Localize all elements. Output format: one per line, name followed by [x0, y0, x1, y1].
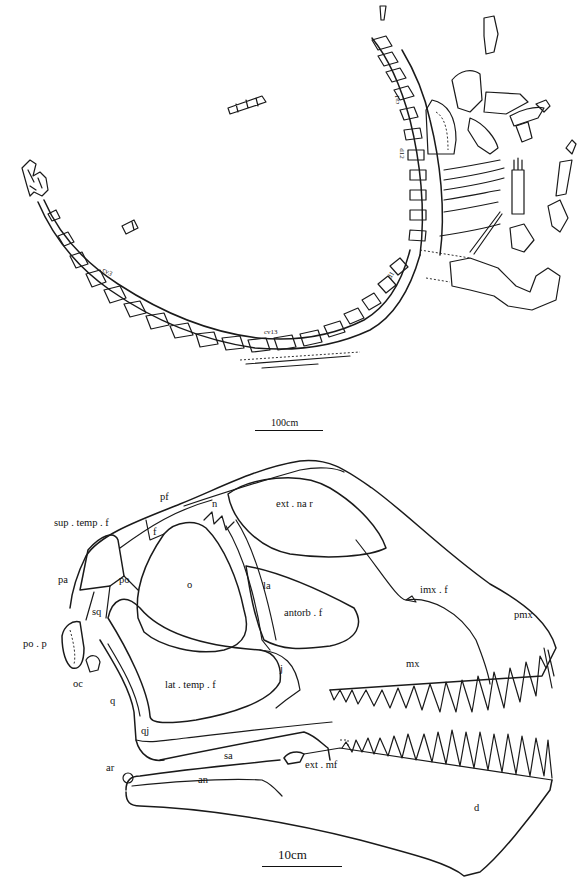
skeleton-line-drawing	[0, 0, 588, 440]
label-cv13: cv13	[264, 329, 278, 336]
label-ext-nar: ext . na r	[276, 499, 313, 510]
label-qj: qj	[141, 726, 149, 737]
skull-lateral-view-panel: sup . temp . f pf n f ext . na r pa po o…	[0, 440, 588, 884]
skull-fragment	[22, 160, 48, 196]
label-an: an	[198, 775, 208, 786]
label-lat-temp-f: lat . temp . f	[165, 680, 216, 691]
label-sq: sq	[92, 607, 101, 618]
label-ca1: ca1	[394, 95, 401, 105]
label-imx-f: imx . f	[420, 585, 448, 596]
label-po: po	[119, 575, 130, 586]
label-ar: ar	[106, 763, 114, 774]
label-pf: pf	[160, 492, 169, 503]
label-mx: mx	[406, 659, 419, 670]
label-oc: oc	[73, 679, 83, 690]
skeleton-quarry-map-panel: ca1 d12 d1 cv13 cv3 100cm	[0, 0, 588, 440]
scale-bar-100cm	[255, 430, 323, 431]
label-la: la	[263, 581, 271, 592]
label-po-p: po . p	[23, 639, 47, 650]
label-pmx: pmx	[514, 610, 533, 621]
label-sup-temp-f: sup . temp . f	[54, 518, 109, 529]
label-q: q	[110, 696, 115, 707]
scale-label-100cm: 100cm	[271, 418, 298, 428]
label-o: o	[187, 580, 192, 591]
scale-bar-10cm	[262, 866, 342, 867]
label-f: f	[153, 527, 157, 538]
label-j: j	[280, 664, 283, 675]
scale-label-10cm: 10cm	[278, 848, 307, 861]
label-pa: pa	[58, 575, 68, 586]
label-d: d	[474, 803, 479, 814]
label-antorb-f: antorb . f	[284, 608, 322, 619]
label-n: n	[212, 499, 217, 510]
label-ext-mf: ext . mf	[305, 760, 337, 771]
label-sa: sa	[224, 751, 233, 762]
label-d12: d12	[398, 148, 405, 159]
